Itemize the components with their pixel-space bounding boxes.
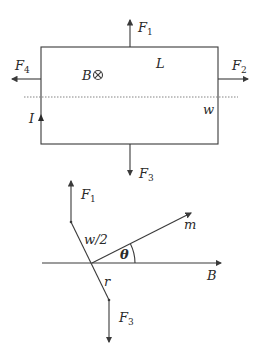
force-f1-lower-label: F1 [80, 187, 96, 204]
length-label: L [155, 56, 165, 71]
force-f4-label: F4 [14, 58, 30, 75]
magnetic-moment-m-label: m [184, 217, 196, 232]
into-page-icon [94, 71, 103, 80]
angle-theta-arc [131, 244, 136, 263]
force-f3-label: F3 [138, 166, 154, 183]
lever-arm-r-label: r [104, 274, 111, 289]
current-loop-rectangle [41, 47, 218, 144]
width-label: w [203, 102, 214, 117]
force-f1-label: F1 [137, 20, 153, 37]
half-width-label: w/2 [84, 232, 108, 247]
force-f2-label: F2 [231, 58, 247, 75]
torque-side-view-diagram: B w/2 r F1 F3 m θ [42, 181, 221, 342]
field-b-label: B [81, 68, 92, 83]
angle-theta-label: θ [120, 247, 129, 262]
force-f3-lower-label: F3 [118, 310, 134, 327]
current-i-label: I [28, 111, 35, 126]
current-loop-diagram: F1 F2 F3 F4 L w B I [12, 20, 248, 183]
diagram-canvas: F1 F2 F3 F4 L w B I B w/2 r [0, 0, 259, 353]
field-b-axis-label: B [206, 268, 217, 283]
current-direction-arrow-icon [38, 114, 44, 121]
